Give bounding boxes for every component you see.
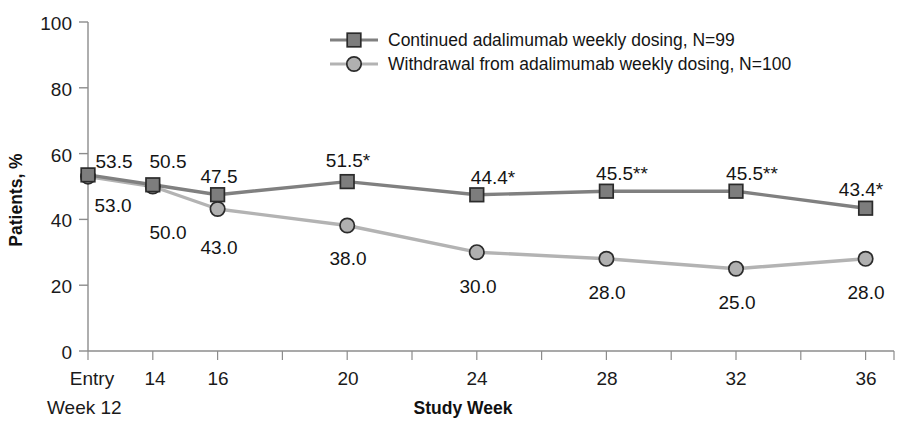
chart-legend: Continued adalimumab weekly dosing, N=99… bbox=[330, 30, 791, 74]
data-label-continued-1: 50.5 bbox=[150, 151, 187, 172]
y-tick-label-100: 100 bbox=[40, 13, 72, 34]
data-label-continued-2: 47.5 bbox=[201, 166, 238, 187]
y-tick-label-40: 40 bbox=[51, 210, 72, 231]
data-label-withdrawal-3: 38.0 bbox=[330, 248, 367, 269]
x-tick-label-28: 28 bbox=[596, 368, 617, 389]
data-label-withdrawal-2: 43.0 bbox=[201, 237, 238, 258]
data-label-continued-4: 44.4* bbox=[471, 167, 516, 188]
x-tick-label-14: 14 bbox=[144, 368, 166, 389]
data-label-continued-3: 51.5* bbox=[326, 150, 371, 171]
y-axis-ticks bbox=[79, 22, 88, 351]
x-tick-label-entry: Entry bbox=[70, 368, 115, 389]
x-tick-label-32: 32 bbox=[725, 368, 746, 389]
chart-container: 100 80 60 40 20 0 Entry 14 16 20 24 bbox=[0, 0, 908, 437]
data-label-withdrawal-0: 53.0 bbox=[95, 195, 132, 216]
data-label-withdrawal-5: 28.0 bbox=[589, 282, 626, 303]
line-chart: 100 80 60 40 20 0 Entry 14 16 20 24 bbox=[0, 0, 908, 437]
x-tick-label-36: 36 bbox=[855, 368, 876, 389]
x-axis-title: Study Week bbox=[414, 398, 513, 418]
x-tick-sublabel-week12: Week 12 bbox=[47, 397, 122, 418]
data-label-continued-6: 45.5** bbox=[726, 163, 778, 184]
legend-entry-continued[interactable]: Continued adalimumab weekly dosing, N=99 bbox=[330, 30, 735, 50]
y-tick-label-60: 60 bbox=[51, 145, 72, 166]
x-tick-label-20: 20 bbox=[337, 368, 358, 389]
square-marker-icon bbox=[347, 33, 361, 47]
circle-marker-icon bbox=[347, 57, 361, 71]
x-tick-label-24: 24 bbox=[466, 368, 488, 389]
x-axis-ticks bbox=[88, 351, 894, 360]
data-label-continued-0: 53.5 bbox=[96, 151, 133, 172]
data-label-withdrawal-6: 25.0 bbox=[719, 292, 756, 313]
y-tick-label-0: 0 bbox=[61, 342, 72, 363]
legend-entry-withdrawal[interactable]: Withdrawal from adalimumab weekly dosing… bbox=[330, 54, 791, 74]
data-label-continued-5: 45.5** bbox=[596, 163, 648, 184]
y-axis-title: Patients, % bbox=[6, 153, 26, 247]
legend-label-continued: Continued adalimumab weekly dosing, N=99 bbox=[388, 30, 735, 50]
data-label-withdrawal-4: 30.0 bbox=[460, 276, 497, 297]
y-tick-label-20: 20 bbox=[51, 276, 72, 297]
legend-label-withdrawal: Withdrawal from adalimumab weekly dosing… bbox=[388, 54, 791, 74]
data-label-continued-7: 43.4* bbox=[839, 179, 884, 200]
data-label-withdrawal-1: 50.0 bbox=[150, 222, 187, 243]
y-tick-label-80: 80 bbox=[51, 79, 72, 100]
x-tick-label-16: 16 bbox=[207, 368, 228, 389]
data-label-withdrawal-7: 28.0 bbox=[848, 282, 885, 303]
